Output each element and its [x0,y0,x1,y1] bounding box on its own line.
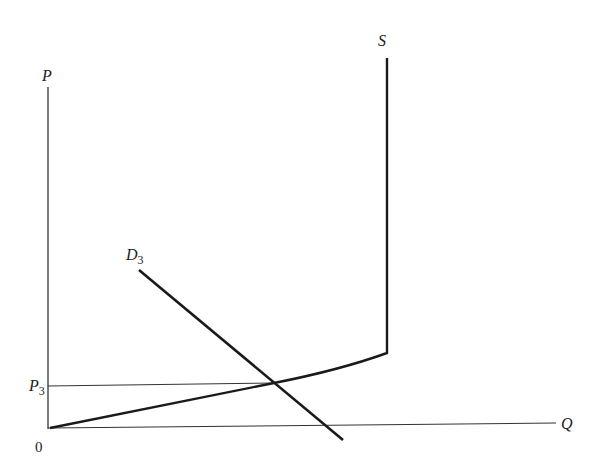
demand-label: D3 [125,246,144,267]
origin-label: 0 [35,439,43,455]
supply-demand-diagram: P Q 0 S D3 P3 [0,0,606,467]
supply-label: S [378,32,386,49]
supply-curve [50,58,387,428]
p3-price-line [48,383,274,386]
demand-curve-d3 [139,270,343,440]
demand-label-subscript: 3 [138,253,144,267]
price-axis-label: P [41,67,52,84]
p3-label-main: P [28,377,39,394]
demand-label-main: D [125,246,138,263]
quantity-axis-label: Q [561,415,573,432]
p3-label-subscript: 3 [39,384,45,398]
quantity-axis [48,423,556,428]
p3-label: P3 [28,377,45,398]
